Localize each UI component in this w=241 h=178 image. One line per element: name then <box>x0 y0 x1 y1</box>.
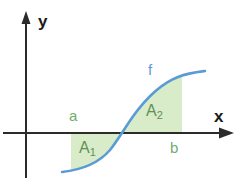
y-axis-arrowhead <box>22 11 31 24</box>
y-axis-label: y <box>38 13 47 30</box>
lower-bound-label-a: a <box>69 108 77 123</box>
region-label-a1-subscript: 1 <box>90 146 96 158</box>
region-label-a1-base: A <box>79 139 90 156</box>
integral-area-diagram: y x a b f A1 A2 <box>0 0 241 178</box>
region-label-a2: A2 <box>146 103 163 119</box>
region-label-a1: A1 <box>79 140 96 156</box>
x-axis-label: x <box>214 108 223 125</box>
region-label-a2-base: A <box>146 102 157 119</box>
curve-label-f: f <box>148 62 152 77</box>
diagram-canvas <box>0 0 241 178</box>
upper-bound-label-b: b <box>170 140 178 155</box>
region-label-a2-subscript: 2 <box>157 109 163 121</box>
x-axis-arrowhead <box>219 128 234 139</box>
